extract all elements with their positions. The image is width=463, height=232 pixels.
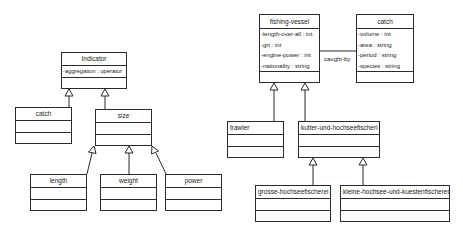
class-grosse-hochseefischerei[interactable]: grosse-hochseefischerei: [255, 185, 331, 222]
class-attributes: [96, 123, 151, 135]
class-length[interactable]: length: [30, 174, 87, 211]
class-name: weight: [101, 175, 156, 188]
association-label: caught-by: [324, 56, 350, 62]
class-name: length: [31, 175, 86, 188]
class-operations: [228, 147, 283, 158]
class-name: power: [166, 175, 221, 188]
class-attributes: [256, 199, 330, 211]
class-name: size: [96, 110, 151, 123]
class-name: catch: [357, 15, 413, 29]
class-name: grosse-hochseefischerei: [256, 186, 330, 199]
class-operations: [16, 133, 71, 144]
class-operations: [101, 200, 156, 211]
class-attributes: [341, 199, 449, 211]
class-attributes: [31, 188, 86, 200]
class-operations: [166, 200, 221, 211]
class-fishing-vessel[interactable]: fishing-vessel -length-over-all : int -g…: [259, 14, 320, 83]
class-attributes: [228, 135, 283, 147]
class-kutter-und-hochseefischeri[interactable]: kutter-und-hochseefischeri: [298, 121, 380, 158]
generalization-power-size: [152, 146, 167, 174]
class-name: trawler: [228, 122, 283, 135]
attribute: -aggregation : operator: [62, 66, 126, 77]
class-name: kleine-hochsee-und-kuestenfischerei: [341, 186, 449, 199]
inheritance-arrowhead-icon: [309, 158, 317, 165]
class-attributes: [166, 188, 221, 200]
class-operations: [62, 78, 126, 89]
class-operations: [341, 211, 449, 222]
generalization-trawler-fishing-vessel: [270, 83, 278, 121]
attribute: -species : string: [357, 61, 413, 72]
generalization-weight-size: [125, 146, 133, 174]
class-kleine-hochsee-und-kuestenfischerei[interactable]: kleine-hochsee-und-kuestenfischerei: [340, 185, 450, 222]
class-operations: [256, 211, 330, 222]
class-name: catch: [16, 108, 71, 121]
class-operations: [357, 72, 413, 83]
generalization-kleine-kutter: [359, 158, 367, 185]
generalization-length-size: [87, 146, 96, 174]
class-operations: [260, 72, 319, 83]
class-catch-right[interactable]: catch -volume : int -area : string -peri…: [356, 14, 414, 83]
attribute: -area : string: [357, 40, 413, 51]
class-name: Indicator: [62, 53, 126, 66]
class-attributes: -volume : int -area : string -period : s…: [357, 29, 413, 72]
class-size[interactable]: size: [95, 109, 152, 146]
inheritance-arrowhead-icon: [65, 89, 73, 96]
class-trawler[interactable]: trawler: [227, 121, 284, 158]
generalization-size-indicator: [101, 89, 109, 109]
inheritance-arrowhead-icon: [270, 83, 278, 90]
class-power[interactable]: power: [165, 174, 222, 211]
inheritance-arrowhead-icon: [359, 158, 367, 165]
generalization-grosse-kutter: [309, 158, 317, 185]
generalization-kutter-fishing-vessel: [301, 83, 309, 121]
class-attributes: -length-over-all : int -grt : int -engin…: [260, 29, 319, 72]
class-attributes: [299, 135, 379, 147]
attribute: -grt : int: [260, 40, 319, 51]
generalization-catch-indicator: [65, 89, 73, 107]
inheritance-arrowhead-icon: [125, 146, 133, 153]
attribute: -volume : int: [357, 29, 413, 40]
class-indicator[interactable]: Indicator -aggregation : operator: [61, 52, 127, 89]
inheritance-arrowhead-icon: [301, 83, 309, 90]
inheritance-arrowhead-icon: [89, 146, 97, 154]
class-operations: [31, 200, 86, 211]
class-attributes: [101, 188, 156, 200]
class-attributes: [16, 121, 71, 133]
class-name: fishing-vessel: [260, 15, 319, 29]
class-operations: [299, 147, 379, 158]
attribute: -length-over-all : int: [260, 29, 319, 40]
attribute: -period : string: [357, 50, 413, 61]
inheritance-arrowhead-icon: [101, 89, 109, 96]
attribute: -engine-power : int: [260, 50, 319, 61]
class-name: kutter-und-hochseefischeri: [299, 122, 379, 135]
class-operations: [96, 135, 151, 146]
inheritance-arrowhead-icon: [152, 146, 159, 154]
class-weight[interactable]: weight: [100, 174, 157, 211]
attribute: -nationality : string: [260, 61, 319, 72]
class-catch-left[interactable]: catch: [15, 107, 72, 144]
class-attributes: -aggregation : operator: [62, 66, 126, 78]
